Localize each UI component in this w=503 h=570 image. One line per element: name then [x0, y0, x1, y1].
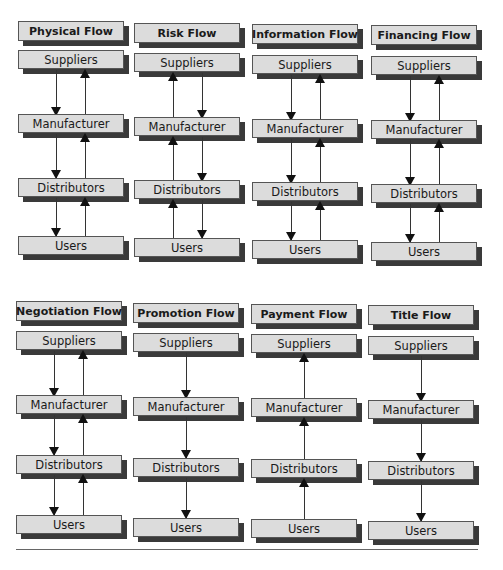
manufacturer-node: Manufacturer [252, 119, 358, 138]
flow-title: Payment Flow [251, 304, 357, 324]
distributors-node: Distributors [371, 184, 477, 203]
information-flow-panel: Information Flow Suppliers Manufacturer … [252, 24, 360, 274]
flow-title: Financing Flow [371, 25, 477, 45]
distributors-node: Distributors [133, 458, 239, 477]
flow-title: Promotion Flow [133, 303, 239, 323]
users-node: Users [16, 515, 122, 534]
arrow-down-icon [291, 139, 292, 183]
suppliers-node: Suppliers [133, 333, 239, 352]
bottom-divider [16, 549, 478, 550]
suppliers-node: Suppliers [252, 55, 358, 74]
arrow-up-icon [304, 479, 305, 519]
arrow-down-icon [54, 475, 55, 515]
distributors-node: Distributors [368, 461, 474, 480]
suppliers-node: Suppliers [368, 336, 474, 355]
arrow-down-icon [56, 70, 57, 115]
arrow-down-icon [202, 200, 203, 238]
arrow-up-icon [85, 134, 86, 178]
arrow-up-icon [83, 351, 84, 396]
promotion-flow-panel: Promotion Flow Suppliers Manufacturer Di… [133, 303, 241, 553]
arrow-down-icon [54, 351, 55, 396]
flow-title: Title Flow [368, 305, 474, 325]
arrow-down-icon [410, 140, 411, 185]
arrow-up-icon [83, 415, 84, 455]
suppliers-node: Suppliers [16, 331, 122, 350]
arrow-up-icon [83, 475, 84, 515]
arrow-up-icon [304, 418, 305, 459]
users-node: Users [252, 240, 358, 259]
arrow-down-icon [291, 75, 292, 120]
distributors-node: Distributors [18, 178, 124, 197]
arrow-down-icon [186, 478, 187, 518]
flow-title: Physical Flow [18, 21, 124, 41]
arrow-down-icon [421, 420, 422, 461]
distributors-node: Distributors [134, 180, 240, 199]
risk-flow-panel: Risk Flow Suppliers Manufacturer Distrib… [134, 23, 242, 273]
arrow-up-icon [439, 140, 440, 185]
arrow-down-icon [410, 76, 411, 121]
arrow-down-icon [202, 137, 203, 181]
arrow-up-icon [320, 75, 321, 120]
manufacturer-node: Manufacturer [18, 114, 124, 133]
arrow-down-icon [202, 73, 203, 118]
arrow-up-icon [173, 73, 174, 118]
arrow-up-icon [173, 200, 174, 238]
suppliers-node: Suppliers [371, 56, 477, 75]
users-node: Users [371, 242, 477, 261]
suppliers-node: Suppliers [134, 53, 240, 72]
distributors-node: Distributors [251, 459, 357, 478]
arrow-up-icon [439, 204, 440, 242]
financing-flow-panel: Financing Flow Suppliers Manufacturer Di… [371, 25, 479, 275]
negotiation-flow-panel: Negotiation Flow Suppliers Manufacturer … [16, 301, 124, 551]
manufacturer-node: Manufacturer [133, 397, 239, 416]
flow-title: Risk Flow [134, 23, 240, 43]
arrow-down-icon [186, 417, 187, 458]
distributors-node: Distributors [252, 182, 358, 201]
arrow-down-icon [56, 134, 57, 178]
users-node: Users [251, 519, 357, 538]
arrow-up-icon [439, 76, 440, 121]
users-node: Users [134, 238, 240, 257]
arrow-up-icon [85, 70, 86, 115]
distributors-node: Distributors [16, 455, 122, 474]
manufacturer-node: Manufacturer [251, 398, 357, 417]
arrow-down-icon [186, 353, 187, 398]
users-node: Users [133, 518, 239, 537]
manufacturer-node: Manufacturer [371, 120, 477, 139]
arrow-up-icon [85, 198, 86, 236]
flow-title: Information Flow [252, 24, 358, 44]
users-node: Users [368, 521, 474, 540]
manufacturer-node: Manufacturer [16, 395, 122, 414]
arrow-up-icon [173, 137, 174, 181]
suppliers-node: Suppliers [18, 50, 124, 69]
title-flow-panel: Title Flow Suppliers Manufacturer Distri… [368, 305, 476, 555]
users-node: Users [18, 236, 124, 255]
manufacturer-node: Manufacturer [134, 117, 240, 136]
arrow-down-icon [54, 415, 55, 455]
arrow-down-icon [421, 481, 422, 521]
flow-title: Negotiation Flow [16, 301, 122, 321]
payment-flow-panel: Payment Flow Suppliers Manufacturer Dist… [251, 304, 359, 554]
arrow-up-icon [304, 354, 305, 399]
arrow-down-icon [56, 198, 57, 236]
arrow-down-icon [291, 202, 292, 240]
manufacturer-node: Manufacturer [368, 400, 474, 419]
arrow-down-icon [410, 204, 411, 242]
physical-flow-panel: Physical Flow Suppliers Manufacturer Dis… [18, 21, 126, 271]
arrow-up-icon [320, 139, 321, 183]
arrow-down-icon [421, 356, 422, 401]
arrow-up-icon [320, 202, 321, 240]
suppliers-node: Suppliers [251, 334, 357, 353]
